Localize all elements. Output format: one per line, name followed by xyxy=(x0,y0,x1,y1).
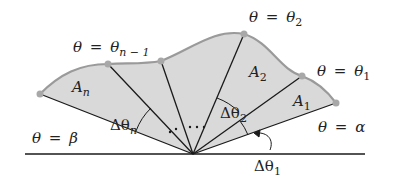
point-theta-mid xyxy=(158,58,165,65)
point-theta-2 xyxy=(241,31,248,38)
point-theta-1 xyxy=(299,73,306,80)
point-beta xyxy=(37,91,44,98)
polar-area-diagram: θ = θn − 1 θ = θ2 θ = θ1 θ = α θ = β An … xyxy=(0,0,395,193)
point-theta-n-minus-1 xyxy=(105,61,112,68)
label-delta-theta-1: Δθ1 xyxy=(254,157,281,178)
point-alpha xyxy=(333,100,340,107)
label-theta-2: θ = θ2 xyxy=(249,8,302,29)
label-theta-1: θ = θ1 xyxy=(317,62,370,83)
label-theta-beta: θ = β xyxy=(32,129,78,147)
label-theta-alpha: θ = α xyxy=(318,118,365,136)
label-theta-n-minus-1: θ = θn − 1 xyxy=(73,38,150,59)
